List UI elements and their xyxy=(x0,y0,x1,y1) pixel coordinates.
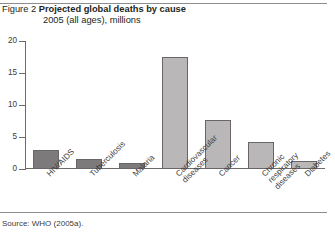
y-tick-label: 10 xyxy=(0,101,17,109)
y-tick-label-text: 0 xyxy=(1,165,17,173)
figure-label: Figure 2 xyxy=(2,4,36,14)
bottom-divider xyxy=(0,212,327,213)
y-tick-label: 15 xyxy=(0,69,17,77)
bar-cardiovascular-diseases xyxy=(162,57,188,169)
y-tick-label-text: 15 xyxy=(1,69,17,77)
y-tick-label: 20 xyxy=(0,37,17,45)
y-tick-label: 0 xyxy=(0,165,17,173)
figure-heading: Figure 2 Projected global deaths by caus… xyxy=(2,4,322,26)
y-tick-label: 5 xyxy=(0,133,17,141)
y-tick-label-text: 10 xyxy=(1,101,17,109)
figure-title-line: Figure 2 Projected global deaths by caus… xyxy=(2,4,322,15)
figure-subtitle: 2005 (all ages), millions xyxy=(2,15,322,26)
y-tick-label-text: 5 xyxy=(1,133,17,141)
page-title: Projected global deaths by cause xyxy=(39,4,186,14)
chart-plot-area: 05101520 HIV/AIDSTuberculosisMalariaCard… xyxy=(0,30,327,210)
y-tick-label-text: 20 xyxy=(1,37,17,45)
source-note: Source: WHO (2005a). xyxy=(2,219,83,228)
